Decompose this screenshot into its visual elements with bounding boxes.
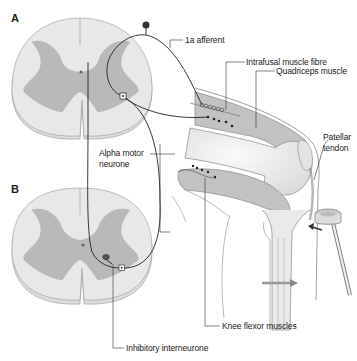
dorsal-root-ganglion	[143, 22, 150, 29]
label-inhibitory-interneurone: Inhibitory interneurone	[126, 343, 208, 353]
inhibitory-interneurone-body	[103, 254, 110, 259]
panel-label-a: A	[11, 12, 19, 24]
label-neurone: neurone	[99, 159, 130, 169]
tibia	[262, 210, 310, 330]
spinal-cord-b	[12, 188, 152, 304]
spinal-cord-a	[12, 18, 152, 139]
stretch-reflex-diagram	[0, 0, 357, 361]
reflex-hammer	[315, 209, 350, 295]
label-1a-afferent: 1a afferent	[185, 35, 224, 45]
label-patellar: Patellar	[323, 132, 351, 142]
label-alpha-motor: Alpha motor	[99, 148, 144, 158]
label-tendon: tendon	[323, 143, 348, 153]
label-knee-flexor-muscles: Knee flexor muscles	[222, 321, 297, 331]
label-quadriceps-muscle: Quadriceps muscle	[276, 66, 347, 76]
panel-label-b: B	[11, 183, 19, 195]
leg-knee	[172, 88, 319, 330]
